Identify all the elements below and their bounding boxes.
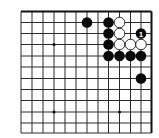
star-point xyxy=(52,43,55,46)
white-stone-icon xyxy=(136,39,147,50)
black-stone-icon xyxy=(103,51,114,62)
move-number-label: 1 xyxy=(139,30,144,39)
black-stone-icon xyxy=(136,73,147,84)
black-stone xyxy=(114,51,125,62)
white-stone xyxy=(114,28,125,39)
go-board: 1 xyxy=(0,0,159,138)
white-stone-icon xyxy=(125,39,136,50)
black-stone xyxy=(103,28,114,39)
black-stone xyxy=(125,51,136,62)
black-stone xyxy=(136,73,147,84)
board-grid xyxy=(21,12,152,134)
white-stone-icon xyxy=(114,17,125,28)
black-stone: 1 xyxy=(136,28,147,39)
black-stone-icon xyxy=(103,39,114,50)
white-stone xyxy=(114,39,125,50)
black-stone xyxy=(82,17,93,28)
black-stone-icon xyxy=(125,51,136,62)
white-stone xyxy=(136,39,147,50)
black-stone-icon xyxy=(136,51,147,62)
star-point xyxy=(52,110,55,113)
black-stone xyxy=(136,51,147,62)
star-point xyxy=(118,110,121,113)
black-stone-icon xyxy=(103,17,114,28)
white-stone-icon xyxy=(114,28,125,39)
white-stone xyxy=(114,17,125,28)
white-stone-icon xyxy=(114,39,125,50)
stones: 1 xyxy=(82,17,147,84)
black-stone xyxy=(103,51,114,62)
black-stone xyxy=(103,39,114,50)
black-stone-icon xyxy=(103,28,114,39)
black-stone xyxy=(103,17,114,28)
white-stone xyxy=(125,39,136,50)
black-stone-icon xyxy=(82,17,93,28)
black-stone-icon xyxy=(114,51,125,62)
